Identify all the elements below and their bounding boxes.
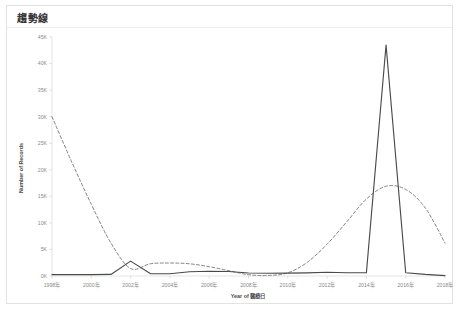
x-tick-label: 2018年 [437,281,454,289]
x-tick-label: 2014年 [358,281,375,289]
y-tick-label: 30K [38,114,48,120]
x-tick-label: 1998年 [44,281,61,289]
chart-title-bar: 趨勢線 [7,6,452,28]
y-tick-label: 20K [38,167,48,173]
x-tick-label: 2010年 [280,281,297,289]
y-tick-label: 5K [41,246,48,252]
x-axis-group: 1998年2000年2002年2004年2006年2008年2010年2012年… [44,276,454,300]
y-tick-label: 10K [38,220,48,226]
y-axis-title: Number of Records [18,143,24,193]
chart-svg: 0K5K10K15K20K25K30K35K40K45K Number of R… [7,28,454,304]
x-tick-group: 1998年2000年2002年2004年2006年2008年2010年2012年… [44,276,454,289]
y-tick-label: 0K [41,273,48,279]
x-tick-label: 2016年 [397,281,414,289]
trend-line-series [52,117,445,276]
chart-title: 趨勢線 [17,10,49,25]
x-tick-label: 2000年 [83,281,100,289]
x-axis-title: Year of 醫療日 [231,292,265,300]
x-tick-label: 2012年 [319,281,336,289]
y-tick-label: 35K [38,87,48,93]
chart-card: 趨勢線 0K5K10K15K20K25K30K35K40K45K Number … [6,5,453,304]
chart-plot-area: 0K5K10K15K20K25K30K35K40K45K Number of R… [7,28,454,304]
y-tick-group: 0K5K10K15K20K25K30K35K40K45K [38,34,52,279]
chart-screenshot-root: 趨勢線 0K5K10K15K20K25K30K35K40K45K Number … [0,0,460,310]
x-tick-label: 2006年 [201,281,218,289]
y-tick-label: 40K [38,60,48,66]
x-tick-label: 2002年 [122,281,139,289]
y-axis-group: 0K5K10K15K20K25K30K35K40K45K Number of R… [18,34,52,279]
y-tick-label: 45K [38,34,48,40]
y-tick-label: 25K [38,140,48,146]
series-group [52,45,445,276]
x-tick-label: 2008年 [240,281,257,289]
y-tick-label: 15K [38,193,48,199]
x-tick-label: 2004年 [162,281,179,289]
records-line-series [52,45,445,276]
